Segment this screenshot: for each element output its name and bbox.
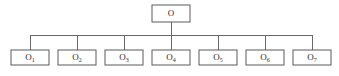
tree-node-child-6: O6 xyxy=(246,50,284,65)
tree-node-child-2: O2 xyxy=(58,50,96,65)
tree-diagram: OO1O2O3O4O5O6O7 xyxy=(0,0,339,76)
tree-node-child-3: O3 xyxy=(105,50,143,65)
edge-group xyxy=(30,22,312,50)
tree-node-root-label: O xyxy=(168,8,175,18)
tree-node-root: O xyxy=(152,5,190,22)
tree-diagram-canvas: OO1O2O3O4O5O6O7 xyxy=(0,0,339,76)
tree-node-child-4: O4 xyxy=(152,50,190,65)
tree-node-child-7: O7 xyxy=(293,50,331,65)
tree-node-child-5: O5 xyxy=(199,50,237,65)
tree-node-child-1: O1 xyxy=(11,50,49,65)
